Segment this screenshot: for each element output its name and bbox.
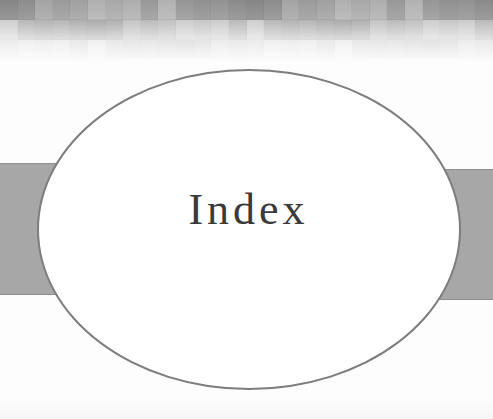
- index-page: Index: [0, 0, 493, 419]
- header-fade-overlay: [0, 0, 493, 62]
- page-title: Index: [0, 186, 493, 234]
- bottom-bleed-through: [0, 399, 493, 419]
